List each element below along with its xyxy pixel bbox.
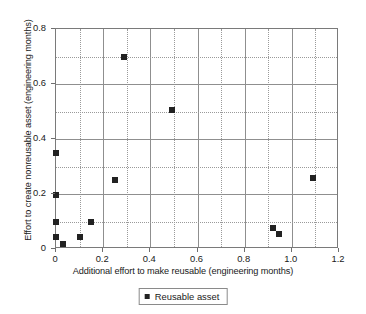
gridline-minor-horizontal: [56, 112, 337, 113]
gridline-major-horizontal: [56, 84, 337, 85]
x-axis-tick: [338, 248, 339, 252]
gridline-minor-vertical: [268, 29, 269, 247]
x-axis-tick-label: 0: [38, 253, 72, 264]
data-point-marker: [60, 241, 66, 247]
gridline-minor-vertical: [221, 29, 222, 247]
y-axis-tick-label: 0: [16, 242, 46, 253]
x-axis-tick-label: 0.6: [180, 253, 214, 264]
gridline-major-vertical: [150, 29, 151, 247]
gridline-major-vertical: [198, 29, 199, 247]
x-axis-tick: [149, 248, 150, 252]
data-point-marker: [121, 54, 127, 60]
y-axis-tick-label: 0.6: [16, 77, 46, 88]
gridline-minor-horizontal: [56, 167, 337, 168]
data-point-marker: [77, 234, 83, 240]
y-axis-tick-label: 0.4: [16, 132, 46, 143]
x-axis-tick-label: 1.0: [274, 253, 308, 264]
x-axis-tick: [244, 248, 245, 252]
gridline-minor-horizontal: [56, 57, 337, 58]
x-axis-tick: [291, 248, 292, 252]
x-axis-title: Additional effort to make reusable (engi…: [0, 266, 366, 276]
y-axis-tick: [51, 28, 55, 29]
legend-marker-swatch: [145, 294, 150, 299]
gridline-major-horizontal: [56, 139, 337, 140]
scatter-chart-figure: Effort to create nonreusable asset (engi…: [0, 0, 366, 314]
gridline-minor-vertical: [80, 29, 81, 247]
x-axis-tick-label: 0.4: [132, 253, 166, 264]
gridline-minor-vertical: [127, 29, 128, 247]
gridline-minor-vertical: [174, 29, 175, 247]
data-point-marker: [88, 219, 94, 225]
gridline-major-horizontal: [56, 194, 337, 195]
legend: Reusable asset: [139, 288, 228, 305]
y-axis-tick: [51, 193, 55, 194]
x-axis-tick: [55, 248, 56, 252]
data-point-marker: [276, 231, 282, 237]
gridline-minor-vertical: [315, 29, 316, 247]
legend-label: Reusable asset: [155, 291, 220, 302]
gridline-minor-horizontal: [56, 222, 337, 223]
y-axis-tick: [51, 248, 55, 249]
x-axis-tick-label: 1.2: [321, 253, 355, 264]
y-axis-tick-label: 0.8: [16, 22, 46, 33]
data-point-marker: [53, 150, 59, 156]
gridline-major-vertical: [245, 29, 246, 247]
y-axis-tick-label: 0.2: [16, 187, 46, 198]
data-point-marker: [310, 175, 316, 181]
gridline-major-vertical: [103, 29, 104, 247]
y-axis-tick: [51, 138, 55, 139]
data-point-marker: [112, 177, 118, 183]
x-axis-tick: [197, 248, 198, 252]
data-point-marker: [53, 219, 59, 225]
x-axis-tick: [102, 248, 103, 252]
data-point-marker: [53, 234, 59, 240]
data-point-marker: [169, 107, 175, 113]
x-axis-tick-label: 0.8: [227, 253, 261, 264]
x-axis-tick-label: 0.2: [85, 253, 119, 264]
y-axis-title: Effort to create nonreusable asset (engi…: [23, 10, 33, 250]
plot-area: [55, 28, 338, 248]
y-axis-tick: [51, 83, 55, 84]
gridline-major-vertical: [292, 29, 293, 247]
